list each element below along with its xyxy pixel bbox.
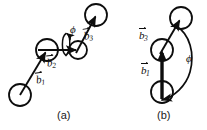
panel-b-atom-1 [151,81,173,103]
panel-a-label-b1: b1 [35,73,45,87]
panel-b-atom-2 [151,39,173,61]
panel-a-label-b2: b2 [46,57,56,71]
panel-b-label-phi: ϕ [186,53,192,64]
figure-canvas: b1 b2 b3 ϕ b3 b1 ϕ (a) (b) [0,0,207,130]
diagram-svg [0,0,207,130]
panel-b-label-b1: b1 [141,65,150,78]
panel-b-caption: (b) [157,109,170,121]
panel-a-rotation-ellipse [62,34,69,56]
panel-b-atom-3 [170,7,192,29]
panel-b-label-b3: b3 [139,30,148,43]
panel-a-atom-4 [85,4,107,26]
panel-a-atom-1 [9,84,31,106]
panel-a-group [9,4,107,106]
panel-a-caption: (a) [57,109,70,121]
vector-overbar-icon [139,28,146,29]
vector-overbar-icon [141,63,148,64]
panel-a-label-phi: ϕ [70,24,76,35]
